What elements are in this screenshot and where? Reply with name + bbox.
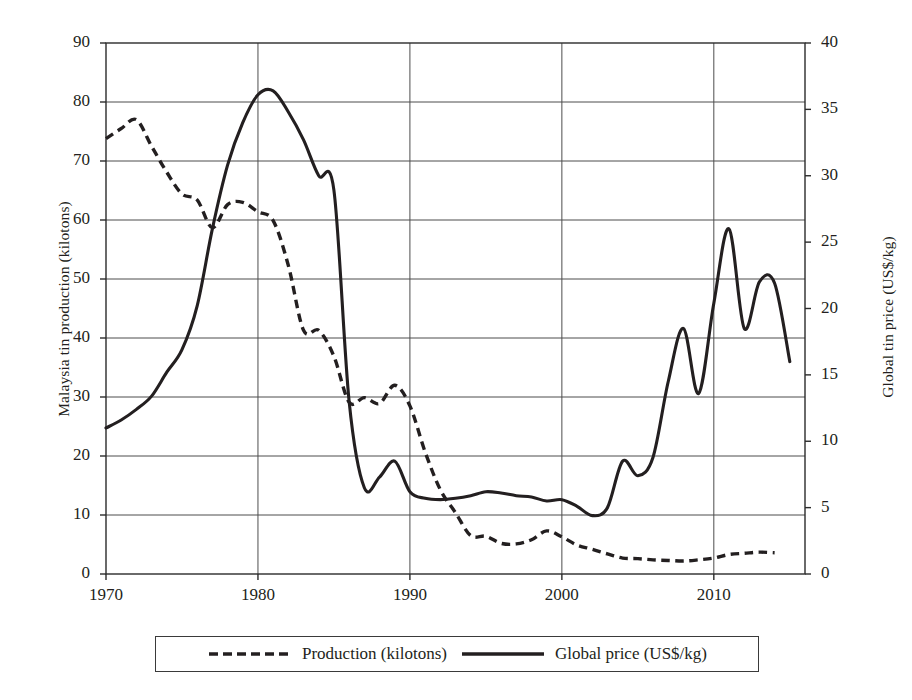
y-tick-right-10: 10 <box>821 430 867 450</box>
y-tick-right-5: 5 <box>821 497 867 517</box>
y-tick-left-20: 20 <box>44 445 90 465</box>
y-tick-left-10: 10 <box>44 504 90 524</box>
legend-entry-price: Global price (US$/kg) <box>460 644 707 664</box>
y-tick-right-0: 0 <box>821 563 867 583</box>
y-tick-right-25: 25 <box>821 231 867 251</box>
x-tick-1990: 1990 <box>370 585 450 605</box>
x-tick-2010: 2010 <box>674 585 754 605</box>
chart-legend: Production (kilotons) Global price (US$/… <box>155 636 759 672</box>
y-tick-left-70: 70 <box>44 150 90 170</box>
series-line-production <box>106 119 775 561</box>
y-tick-right-20: 20 <box>821 298 867 318</box>
solid-line-swatch-icon <box>460 648 546 660</box>
x-tick-2000: 2000 <box>522 585 602 605</box>
series-line-price <box>106 89 790 515</box>
y-tick-right-30: 30 <box>821 165 867 185</box>
y-tick-left-30: 30 <box>44 386 90 406</box>
plot-frame <box>106 43 805 574</box>
y-tick-right-35: 35 <box>821 98 867 118</box>
y-tick-right-40: 40 <box>821 32 867 52</box>
y-tick-left-80: 80 <box>44 91 90 111</box>
y-tick-left-50: 50 <box>44 268 90 288</box>
y-tick-left-60: 60 <box>44 209 90 229</box>
dashed-line-swatch-icon <box>207 648 293 660</box>
legend-label-price: Global price (US$/kg) <box>555 644 707 664</box>
x-tick-1980: 1980 <box>218 585 298 605</box>
legend-entry-production: Production (kilotons) <box>207 644 447 664</box>
y-tick-left-90: 90 <box>44 32 90 52</box>
chart-figure: Malaysia tin production (kilotons) Globa… <box>0 0 912 700</box>
y-tick-left-0: 0 <box>44 563 90 583</box>
legend-label-production: Production (kilotons) <box>302 644 447 664</box>
x-tick-1970: 1970 <box>66 585 146 605</box>
y-tick-left-40: 40 <box>44 327 90 347</box>
y-tick-right-15: 15 <box>821 364 867 384</box>
